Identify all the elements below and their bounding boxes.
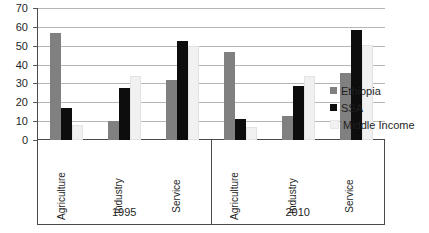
category-group — [154, 8, 212, 140]
bar-ssa[interactable] — [119, 88, 130, 140]
bar-middle_income[interactable] — [246, 127, 257, 140]
category-label-cell: Agriculture — [38, 140, 96, 198]
legend-swatch-icon — [330, 120, 339, 129]
legend-item[interactable]: SSA — [330, 99, 429, 116]
category-labels-row: AgricultureIndustryService — [212, 140, 385, 198]
category-group — [96, 8, 154, 140]
y-tick-label: 20 — [16, 97, 28, 108]
category-group — [38, 8, 96, 140]
bar-ethiopia[interactable] — [166, 80, 177, 140]
y-tick-label: 40 — [16, 59, 28, 70]
year-cell: AgricultureIndustryService1995 — [38, 140, 211, 224]
y-tick-label: 10 — [16, 116, 28, 127]
bar-ssa[interactable] — [177, 41, 188, 140]
legend-label: SSA — [341, 102, 363, 114]
bar-middle_income[interactable] — [130, 76, 141, 140]
y-tick-label: 0 — [22, 135, 28, 146]
category-labels-row: AgricultureIndustryService — [38, 140, 211, 198]
grouped-bar-chart: 70 60 50 40 30 20 10 0 AgricultureIndust… — [0, 0, 429, 233]
legend-item[interactable]: Ethiopia — [330, 82, 429, 99]
category-label-cell: Service — [153, 140, 211, 198]
bar-ssa[interactable] — [61, 108, 72, 140]
category-label-cell: Agriculture — [212, 140, 270, 198]
category-label-cell: Industry — [269, 140, 327, 198]
bar-middle_income[interactable] — [188, 46, 199, 140]
bar-ethiopia[interactable] — [108, 121, 119, 140]
legend-item[interactable]: Middle Income — [330, 116, 429, 133]
y-tick-label: 60 — [16, 21, 28, 32]
year-block — [38, 8, 212, 140]
y-tick-label: 30 — [16, 78, 28, 89]
bar-ssa[interactable] — [235, 119, 246, 140]
bar-middle_income[interactable] — [72, 125, 83, 140]
bar-ethiopia[interactable] — [50, 33, 61, 140]
legend-label: Middle Income — [343, 119, 415, 131]
category-label-cell: Industry — [96, 140, 154, 198]
y-tick-label: 70 — [16, 3, 28, 14]
legend-swatch-icon — [330, 104, 337, 111]
legend: EthiopiaSSAMiddle Income — [330, 82, 429, 133]
category-label-cell: Service — [327, 140, 385, 198]
y-tick-label: 50 — [16, 40, 28, 51]
bar-middle_income[interactable] — [304, 76, 315, 140]
bar-ssa[interactable] — [293, 86, 304, 140]
bar-ethiopia[interactable] — [224, 52, 235, 140]
bar-ethiopia[interactable] — [282, 116, 293, 140]
category-group — [212, 8, 270, 140]
year-cell: AgricultureIndustryService2010 — [211, 140, 385, 224]
year-label: 1995 — [38, 206, 211, 218]
legend-label: Ethiopia — [341, 85, 381, 97]
y-axis: 70 60 50 40 30 20 10 0 — [0, 8, 32, 140]
category-group — [269, 8, 327, 140]
legend-swatch-icon — [330, 87, 337, 94]
year-label: 2010 — [212, 206, 385, 218]
category-axis-frame: AgricultureIndustryService1995Agricultur… — [37, 140, 385, 225]
